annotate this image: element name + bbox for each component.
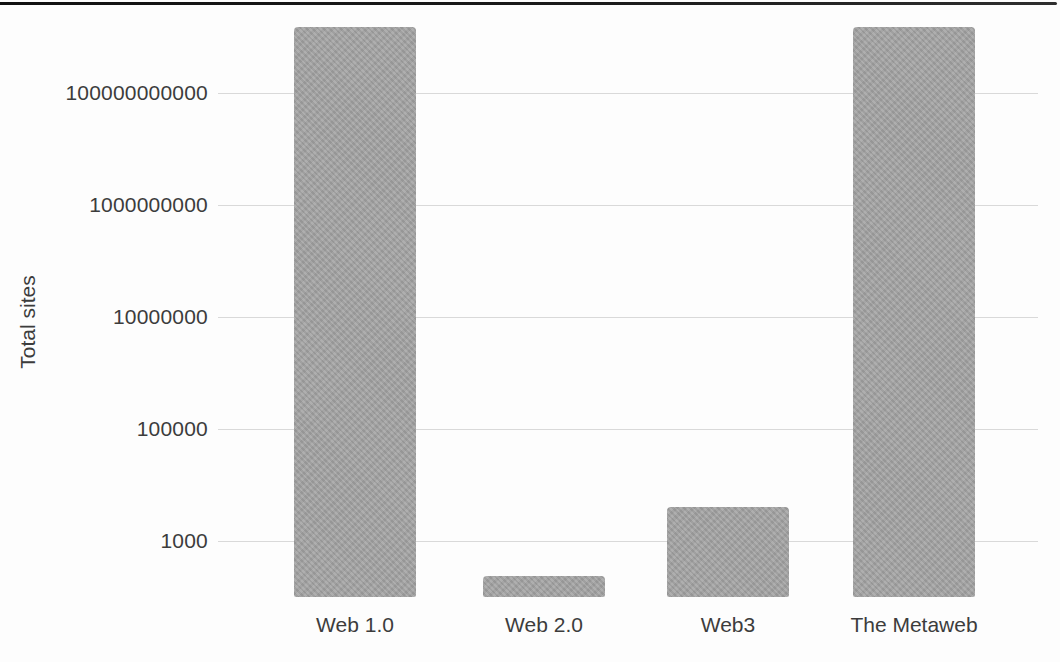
x-category-label: Web 1.0 [245, 613, 465, 637]
bar-the-metaweb [853, 27, 975, 597]
y-tick-label: 1000000000 [40, 192, 208, 218]
bar-web-1-0 [294, 27, 416, 597]
bar-chart: Total sites 1000100000100000001000000000… [0, 0, 1060, 662]
y-tick-label: 10000000 [40, 304, 208, 330]
bar-web-2-0 [483, 576, 605, 597]
x-category-label: The Metaweb [804, 613, 1024, 637]
scanned-page: Total sites 1000100000100000001000000000… [0, 0, 1060, 662]
y-axis-title: Total sites [15, 242, 41, 402]
y-tick-label: 100000000000 [40, 80, 208, 106]
y-tick-label: 100000 [40, 416, 208, 442]
y-tick-label: 1000 [40, 528, 208, 554]
bar-web3 [667, 507, 789, 597]
